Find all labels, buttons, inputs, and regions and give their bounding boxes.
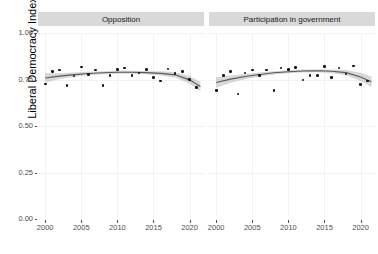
y-tick-mark	[35, 173, 38, 174]
y-tick-label: 0.75	[7, 76, 33, 84]
y-tick-mark	[35, 219, 38, 220]
x-tick-label: 2005	[66, 224, 96, 232]
data-point	[44, 83, 47, 86]
panel-plot-area	[38, 33, 204, 219]
panel-plot-area	[209, 33, 375, 219]
y-tick-mark	[35, 80, 38, 81]
data-point	[222, 74, 225, 77]
data-point	[51, 70, 54, 73]
data-point	[229, 70, 232, 73]
x-tick-label: 2000	[201, 224, 231, 232]
y-tick-label: 1.00	[7, 29, 33, 37]
x-tick-label: 2010	[102, 224, 132, 232]
x-tick-label: 2005	[237, 224, 267, 232]
data-point	[294, 66, 297, 69]
x-tick-label: 2015	[138, 224, 168, 232]
chart-root: Liberal Democracy Index 0.000.250.500.75…	[0, 0, 378, 254]
y-tick-mark	[35, 126, 38, 127]
y-tick-mark	[35, 33, 38, 34]
y-tick-label: 0.00	[7, 215, 33, 223]
data-point	[258, 74, 261, 77]
x-tick-label: 2020	[175, 224, 205, 232]
panel-strip-label: Opposition	[102, 15, 140, 24]
data-point	[316, 74, 319, 77]
data-point	[287, 68, 290, 71]
panel-strip-participation: Participation in government	[209, 12, 375, 26]
trend-fit-layer	[38, 33, 204, 219]
data-point	[188, 78, 191, 81]
data-point	[323, 65, 326, 68]
data-point	[66, 84, 69, 87]
panel-strip-label: Participation in government	[244, 15, 341, 24]
x-tick-label: 2015	[309, 224, 339, 232]
trend-fit-layer	[209, 33, 375, 219]
data-point	[102, 84, 105, 87]
data-point	[123, 67, 126, 70]
x-tick-label: 2000	[30, 224, 60, 232]
y-tick-label: 0.50	[7, 122, 33, 130]
data-point	[131, 74, 134, 77]
y-tick-label: 0.25	[7, 169, 33, 177]
data-point	[116, 68, 119, 71]
data-point	[152, 76, 155, 79]
confidence-ribbon	[216, 69, 371, 87]
data-point	[87, 73, 90, 76]
data-point	[145, 68, 148, 71]
x-tick-label: 2010	[273, 224, 303, 232]
data-point	[181, 70, 184, 73]
data-point	[80, 66, 83, 69]
x-tick-label: 2020	[346, 224, 376, 232]
data-point	[330, 76, 333, 79]
panel-strip-opposition: Opposition	[38, 12, 204, 26]
data-point	[215, 89, 218, 92]
confidence-ribbon	[45, 71, 200, 92]
data-point	[195, 86, 198, 89]
data-point	[359, 83, 362, 86]
